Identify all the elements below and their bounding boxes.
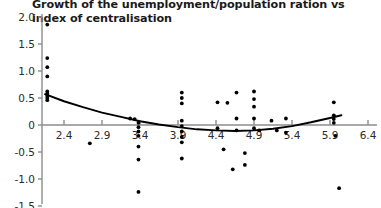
svg-text:0: 0: [28, 119, 35, 131]
svg-text:1.5: 1.5: [18, 38, 35, 50]
svg-text:2.0: 2.0: [18, 11, 35, 23]
svg-text:-0.5: -0.5: [15, 146, 36, 158]
svg-text:-1.0: -1.0: [15, 173, 36, 185]
scatter-plot: 2.01.51.00.50-0.5-1.0-1.5 2.42.93.43.94.…: [0, 0, 381, 208]
y-axis-ticks: 2.01.51.00.50-0.5-1.0-1.5: [15, 11, 43, 208]
svg-text:0.5: 0.5: [18, 92, 35, 104]
svg-text:1.0: 1.0: [18, 65, 35, 77]
svg-text:-1.5: -1.5: [15, 200, 36, 208]
svg-text:2.9: 2.9: [94, 129, 111, 141]
svg-text:2.4: 2.4: [56, 129, 73, 141]
chart-figure: Growth of the unemployment/population ra…: [0, 0, 381, 208]
svg-text:3.9: 3.9: [170, 129, 187, 141]
svg-text:6.4: 6.4: [360, 129, 377, 141]
